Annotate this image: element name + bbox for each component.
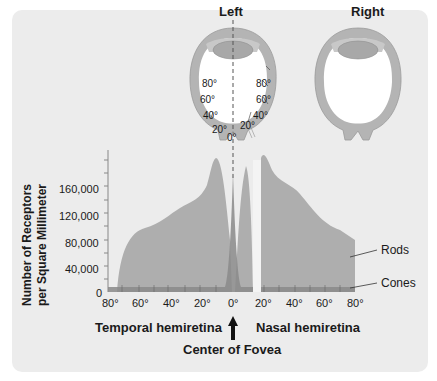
x-tick-temporal-80: 80° [102, 297, 119, 309]
eye-angle-right-40: 40° [253, 110, 268, 121]
left-eye-label: Left [219, 4, 243, 19]
eye-angle-right-20: 20° [240, 120, 255, 131]
y-tick-80000: 80,000 [65, 237, 99, 249]
eye-angle-left-80: 80° [202, 78, 217, 89]
eye-angle-left-20: 20° [212, 124, 227, 135]
y-axis-title-line2: per Square Millimeter [35, 184, 49, 306]
eye-angle-center-0: 0° [227, 132, 237, 143]
x-tick-nasal-40: 40° [286, 297, 303, 309]
rods-area-temporal [117, 158, 232, 292]
legend-cones: Cones [381, 276, 416, 290]
y-tick-40000: 40,000 [65, 263, 99, 275]
y-axis-title: Number of Receptors per Square Millimete… [20, 158, 50, 308]
x-tick-nasal-20: 20° [255, 297, 272, 309]
legend-rods: Rods [381, 243, 409, 257]
y-tick-120000: 120,000 [59, 210, 99, 222]
x-tick-0: 0° [228, 297, 239, 309]
rods-area-nasal [261, 155, 355, 292]
eye-angle-left-60: 60° [200, 94, 215, 105]
x-tick-temporal-20: 20° [194, 297, 211, 309]
blind-spot-gap [253, 160, 261, 292]
receptor-density-chart [104, 150, 377, 340]
cones-area-nasal [261, 287, 355, 292]
x-tick-nasal-80: 80° [347, 297, 364, 309]
x-tick-temporal-40: 40° [163, 297, 180, 309]
x-tick-nasal-60: 60° [316, 297, 333, 309]
right-eye-diagram [315, 28, 401, 140]
y-axis-title-line1: Number of Receptors [20, 184, 34, 306]
nasal-hemiretina-label: Nasal hemiretina [256, 320, 360, 335]
eye-angle-right-60: 60° [256, 94, 271, 105]
center-of-fovea-label: Center of Fovea [183, 342, 281, 357]
right-eye-label: Right [351, 4, 384, 19]
temporal-hemiretina-label: Temporal hemiretina [95, 320, 222, 335]
eye-angle-right-80: 80° [256, 78, 271, 89]
right-eye-lens [338, 41, 378, 59]
fovea-arrow-icon [228, 316, 238, 340]
eye-angle-left-40: 40° [203, 110, 218, 121]
x-tick-temporal-60: 60° [132, 297, 149, 309]
y-tick-160000: 160,000 [59, 183, 99, 195]
